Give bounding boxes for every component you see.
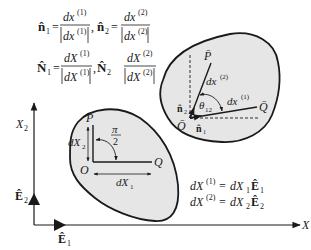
e2-label: Ê bbox=[15, 189, 23, 203]
svg-text:=: = bbox=[52, 20, 59, 34]
equation-N1: N̂ 1 = dX (1) dX (1) , bbox=[37, 49, 96, 84]
svg-text:(1): (1) bbox=[206, 177, 216, 186]
svg-text:(2): (2) bbox=[138, 27, 148, 36]
dx1-deformed-label: dx bbox=[227, 95, 238, 107]
svg-text:dX: dX bbox=[64, 70, 78, 84]
svg-text:2: 2 bbox=[24, 196, 28, 205]
svg-text:=: = bbox=[111, 20, 118, 34]
svg-text:=: = bbox=[219, 179, 226, 193]
angle-numerator: π bbox=[112, 123, 118, 135]
angle-denominator: 2 bbox=[113, 136, 118, 147]
svg-text:(1): (1) bbox=[241, 93, 250, 101]
svg-text:(1): (1) bbox=[77, 8, 87, 17]
deformed-body: P̄ Ō Q̄ dx (2) dx (1) θ 12 n̂ 2 n̂ 1 bbox=[160, 33, 279, 142]
svg-text:2: 2 bbox=[82, 143, 86, 151]
x1-axis-label: X bbox=[301, 218, 310, 232]
equation-n1: n̂ 1 = dx (1) dx (1) , bbox=[38, 8, 94, 43]
svg-text:dX: dX bbox=[190, 179, 204, 193]
N1-symbol: N̂ bbox=[37, 60, 47, 75]
svg-text:2: 2 bbox=[105, 27, 109, 36]
svg-text:dx: dx bbox=[63, 29, 75, 43]
svg-text:1: 1 bbox=[246, 186, 250, 195]
dx2-label: dX bbox=[68, 136, 82, 148]
svg-text:dx: dx bbox=[124, 29, 136, 43]
e1-arrowhead-icon bbox=[54, 219, 66, 231]
n2-symbol: n̂ bbox=[97, 19, 105, 34]
reference-body: P O Q dX 2 dX 1 π 2 bbox=[68, 109, 178, 221]
svg-text:dX: dX bbox=[230, 179, 244, 193]
svg-text:1: 1 bbox=[310, 225, 311, 234]
svg-text:(1): (1) bbox=[80, 49, 90, 58]
svg-text:,: , bbox=[93, 61, 96, 75]
svg-text:(1): (1) bbox=[80, 68, 90, 77]
svg-text:=: = bbox=[219, 195, 226, 209]
svg-text:(2): (2) bbox=[206, 193, 216, 202]
unit-vector-equations: n̂ 1 = dx (1) dx (1) , n̂ 2 = dx (2) dx … bbox=[37, 8, 156, 84]
svg-text:(1): (1) bbox=[77, 27, 87, 36]
svg-text:1: 1 bbox=[67, 239, 71, 248]
svg-text:2: 2 bbox=[246, 202, 250, 211]
svg-text:2: 2 bbox=[260, 202, 264, 211]
svg-text:(2): (2) bbox=[138, 8, 148, 17]
svg-text:2: 2 bbox=[184, 109, 187, 115]
svg-text:dX: dX bbox=[64, 51, 78, 65]
svg-text:2: 2 bbox=[24, 124, 28, 133]
equation-N2: N̂ 2 dX (2) dX (2) bbox=[97, 49, 156, 84]
svg-text:,: , bbox=[91, 20, 94, 34]
svg-text:12: 12 bbox=[205, 106, 213, 114]
svg-text:1: 1 bbox=[203, 129, 206, 135]
relation-2: dX (2) = dX 2 Ê 2 bbox=[190, 193, 264, 211]
n1-symbol: n̂ bbox=[38, 19, 46, 34]
svg-text:dX: dX bbox=[127, 51, 141, 65]
svg-text:dx: dx bbox=[63, 10, 75, 24]
svg-text:(2): (2) bbox=[143, 49, 153, 58]
dx2-deformed-label: dx bbox=[206, 75, 217, 87]
svg-text:1: 1 bbox=[47, 68, 51, 77]
N2-symbol: N̂ bbox=[97, 60, 107, 75]
diagram-canvas: n̂ 1 = dx (1) dx (1) , n̂ 2 = dx (2) dx … bbox=[0, 0, 311, 250]
svg-text:dx: dx bbox=[124, 10, 136, 24]
e1-label: Ê bbox=[58, 232, 66, 246]
point-q-bar-label: Q̄ bbox=[259, 100, 268, 114]
svg-text:dX: dX bbox=[127, 70, 141, 84]
point-o-bar-label: Ō bbox=[177, 119, 186, 133]
svg-text:2: 2 bbox=[107, 68, 111, 77]
svg-text:1: 1 bbox=[46, 27, 50, 36]
svg-text:Ê: Ê bbox=[251, 195, 259, 209]
svg-text:dX: dX bbox=[230, 195, 244, 209]
svg-text:1: 1 bbox=[130, 183, 134, 191]
point-p-bar-label: P̄ bbox=[203, 49, 212, 63]
relations: dX (1) = dX 1 Ê 1 dX (2) = dX 2 Ê 2 bbox=[190, 177, 264, 211]
point-o-label: O bbox=[80, 163, 89, 177]
svg-text:dX: dX bbox=[190, 195, 204, 209]
svg-text:=: = bbox=[53, 61, 60, 75]
relation-1: dX (1) = dX 1 Ê 1 bbox=[190, 177, 264, 195]
n1-deformed-label: n̂ bbox=[196, 123, 202, 134]
svg-text:(2): (2) bbox=[220, 73, 229, 81]
svg-text:Ê: Ê bbox=[251, 179, 259, 193]
equation-n2: n̂ 2 = dx (2) dx (2) bbox=[97, 8, 150, 43]
x2-axis-label: X bbox=[15, 117, 24, 131]
e2-arrowhead-icon bbox=[28, 193, 40, 205]
svg-text:(2): (2) bbox=[143, 68, 153, 77]
svg-text:1: 1 bbox=[260, 186, 264, 195]
point-p-label: P bbox=[85, 111, 94, 125]
point-q-label: Q bbox=[154, 155, 163, 169]
dx1-label: dX bbox=[116, 176, 130, 188]
n2-deformed-label: n̂ bbox=[177, 103, 183, 114]
